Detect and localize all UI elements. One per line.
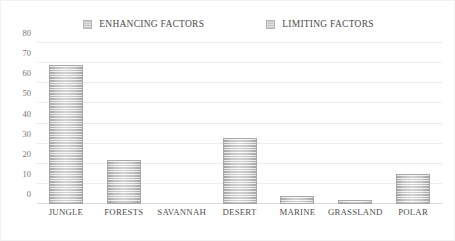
- y-axis-tick-label: 0: [27, 189, 31, 199]
- legend-entry-enhancing-factors[interactable]: ENHANCING FACTORS: [83, 19, 204, 29]
- bar-grassland[interactable]: [338, 200, 372, 204]
- legend-swatch-icon: [83, 20, 92, 29]
- y-axis-tick-label: 20: [23, 149, 32, 159]
- y-axis-tick-label: 50: [23, 88, 32, 98]
- y-axis-tick-label: 70: [23, 48, 32, 58]
- x-axis-label-jungle: JUNGLE: [37, 207, 95, 217]
- bar-slot: [37, 43, 95, 204]
- bar-marine[interactable]: [280, 196, 314, 204]
- bar-polar[interactable]: [396, 174, 430, 204]
- y-axis-tick-label: 80: [23, 28, 32, 38]
- y-axis-tick-label: 40: [23, 109, 32, 119]
- y-axis-tick-label: 60: [23, 68, 32, 78]
- bar-slot: [268, 43, 326, 204]
- chart-legend: ENHANCING FACTORS LIMITING FACTORS: [1, 15, 455, 33]
- bar-desert[interactable]: [223, 138, 257, 204]
- plot-area: 01020304050607080: [37, 43, 442, 204]
- bar-series-enhancing-factors: [37, 43, 442, 204]
- bar-jungle[interactable]: [49, 65, 83, 204]
- y-axis-tick-label: 10: [23, 169, 32, 179]
- x-axis-labels: JUNGLEFORESTSSAVANNAHDESERTMARINEGRASSLA…: [37, 207, 442, 217]
- x-axis-label-savannah: SAVANNAH: [153, 207, 211, 217]
- bar-forests[interactable]: [107, 160, 141, 204]
- bar-slot: [384, 43, 442, 204]
- x-axis-label-desert: DESERT: [211, 207, 269, 217]
- bar-slot: [326, 43, 384, 204]
- x-axis-label-marine: MARINE: [268, 207, 326, 217]
- legend-swatch-icon: [266, 20, 275, 29]
- bar-chart: ENHANCING FACTORS LIMITING FACTORS 01020…: [0, 0, 455, 241]
- legend-entry-limiting-factors[interactable]: LIMITING FACTORS: [266, 19, 374, 29]
- bar-slot: [153, 43, 211, 204]
- legend-label-limiting-factors: LIMITING FACTORS: [282, 19, 374, 29]
- x-axis-label-polar: POLAR: [384, 207, 442, 217]
- x-axis-label-forests: FORESTS: [95, 207, 153, 217]
- bar-slot: [211, 43, 269, 204]
- y-axis-tick-label: 30: [23, 129, 32, 139]
- legend-label-enhancing-factors: ENHANCING FACTORS: [99, 19, 204, 29]
- bar-slot: [95, 43, 153, 204]
- x-axis-label-grassland: GRASSLAND: [326, 207, 384, 217]
